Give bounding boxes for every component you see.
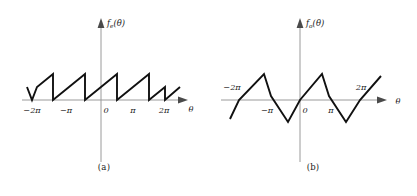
tick-label-a-2pi: 2π (158, 105, 170, 115)
tick-label-a-negpi: −π (60, 105, 73, 115)
plot-a-svg: fe(θ) −2π −π 0 π 2π θ (0, 0, 208, 172)
tick-label-b-pi: π (327, 105, 334, 115)
x-axis-name-b: θ (396, 96, 401, 106)
function-label-a: fe(θ) (106, 18, 125, 29)
caption-a: (a) (0, 162, 208, 172)
function-label-b: fo(θ) (305, 18, 324, 29)
y-axis-arrowhead-b (297, 18, 304, 28)
panel-b: fo(θ) −2π −π 0 π 2π θ (b) (209, 0, 417, 196)
figure-container: fe(θ) −2π −π 0 π 2π θ (a) fo(θ) (0, 0, 417, 196)
tick-label-a-neg2pi: −2π (23, 105, 41, 115)
tick-label-b-2pi: 2π (355, 82, 367, 92)
x-axis-name-a: θ (189, 104, 194, 114)
x-axis-arrowhead-a (178, 97, 188, 104)
panel-a: fe(θ) −2π −π 0 π 2π θ (a) (0, 0, 208, 196)
tick-label-b-zero: 0 (302, 105, 307, 115)
y-axis-arrowhead-a (98, 18, 105, 28)
fn-arg-a: (θ) (114, 18, 126, 28)
tick-label-a-pi: π (129, 105, 136, 115)
x-axis-arrowhead-b (377, 97, 387, 104)
plot-b-svg: fo(θ) −2π −π 0 π 2π θ (209, 0, 417, 172)
tick-label-b-neg2pi: −2π (223, 82, 241, 92)
tick-label-b-negpi: −π (261, 105, 274, 115)
fn-arg-b: (θ) (313, 18, 325, 28)
tick-label-a-zero: 0 (103, 105, 108, 115)
waveform-even (27, 74, 180, 100)
caption-b: (b) (209, 162, 417, 172)
